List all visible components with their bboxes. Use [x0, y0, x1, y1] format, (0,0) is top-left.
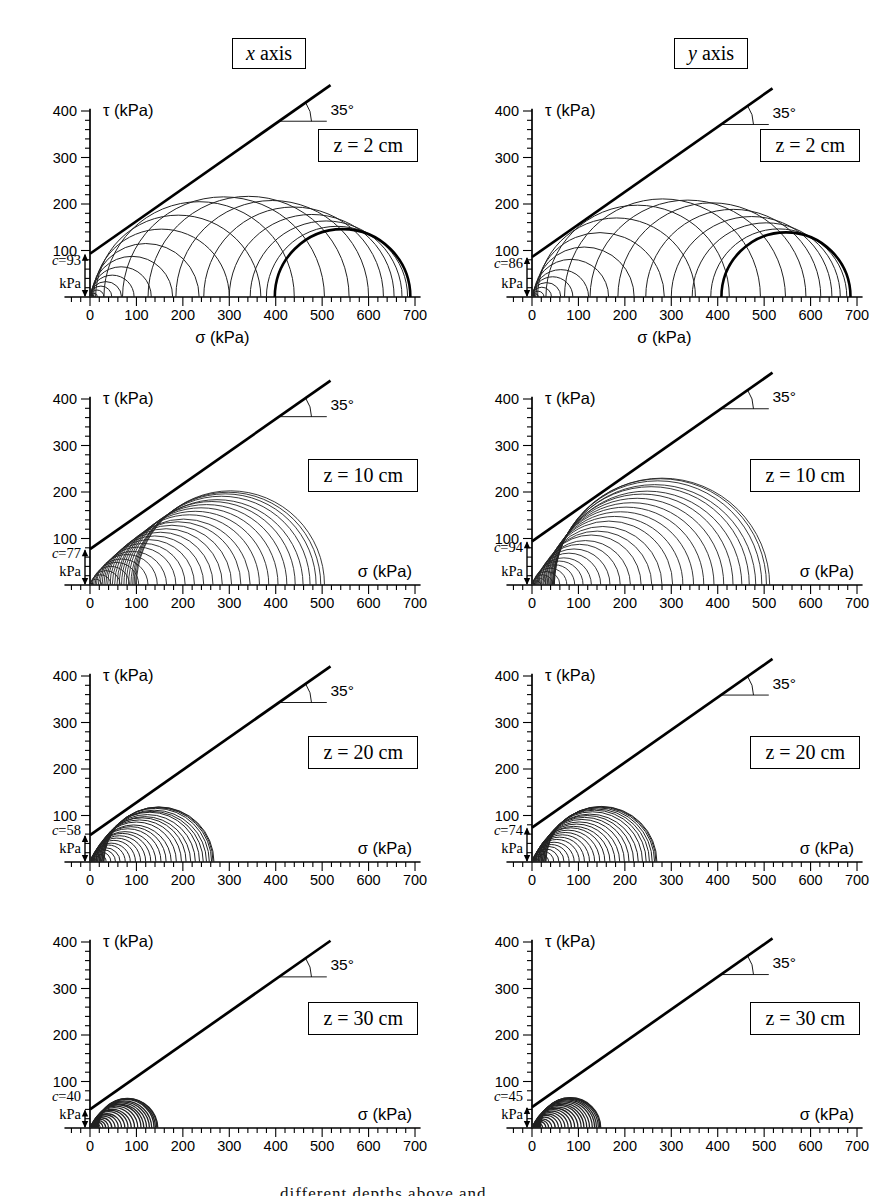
mohr-circle [275, 229, 411, 297]
mohr-panel-y-z20cm: 0100200300400500600700100200300400τ (kPa… [442, 607, 884, 917]
cohesion-arrowhead-top [82, 835, 88, 842]
plot-x-z30: 0100200300400500600700100200300400τ (kPa… [52, 932, 427, 1154]
column-header-y-axis: y axis [674, 38, 748, 69]
x-tick-label: 400 [706, 1138, 730, 1154]
mohr-panel-x-z30cm: 0100200300400500600700100200300400τ (kPa… [0, 873, 442, 1183]
cohesion-unit-label: kPa [59, 275, 81, 291]
mohr-panel-y-z30cm: 0100200300400500600700100200300400τ (kPa… [442, 873, 884, 1183]
angle-arc [306, 958, 312, 977]
mohr-circle [546, 806, 657, 862]
plot-y-z20: 0100200300400500600700100200300400τ (kPa… [494, 659, 869, 888]
y-tick-label: 300 [53, 438, 77, 454]
plot-y-z30: 0100200300400500600700100200300400τ (kPa… [494, 932, 869, 1154]
x-tick-label: 300 [659, 1138, 683, 1154]
cohesion-unit-label: kPa [59, 840, 81, 856]
cohesion-arrowhead-bottom [524, 1121, 530, 1128]
cohesion-value-label: c=40 [52, 1088, 81, 1104]
angle-arc [748, 106, 754, 125]
y-tick-label: 300 [495, 981, 519, 997]
angle-arc [306, 684, 312, 703]
cohesion-arrowhead-bottom [524, 290, 530, 297]
mohr-circle [544, 526, 662, 585]
x-tick-label: 0 [86, 1138, 94, 1154]
cohesion-arrowhead-bottom [524, 578, 530, 585]
y-tick-label: 200 [53, 1027, 77, 1043]
x-tick-label: 600 [798, 307, 822, 323]
depth-label-box: z = 30 cm [308, 1002, 418, 1035]
depth-label-box: z = 10 cm [750, 459, 860, 492]
y-tick-label: 200 [53, 761, 77, 777]
cohesion-unit-label: kPa [501, 563, 523, 579]
y-tick-label: 400 [53, 103, 77, 119]
angle-arc [748, 956, 754, 975]
depth-label-box: z = 10 cm [308, 459, 418, 492]
angle-arc [306, 103, 312, 122]
y-tick-label: 300 [495, 715, 519, 731]
y-axis-title: τ (kPa) [545, 666, 596, 684]
mohr-circle [104, 202, 294, 297]
column-header-variable: y [688, 42, 697, 64]
depth-label-box: z = 20 cm [750, 736, 860, 769]
y-axis-title: τ (kPa) [103, 666, 154, 684]
mohr-panel-x-z10cm: 0100200300400500600700100200300400τ (kPa… [0, 330, 442, 640]
mohr-circle [98, 818, 186, 862]
failure-envelope-line [532, 938, 773, 1107]
x-tick-label: 500 [752, 307, 776, 323]
friction-angle-label: 35° [773, 675, 796, 692]
x-axis-title: σ (kPa) [800, 1105, 854, 1123]
column-header-variable: x [246, 42, 255, 64]
y-tick-label: 200 [495, 484, 519, 500]
cohesion-value-label: c=86 [494, 255, 523, 271]
x-tick-label: 0 [86, 307, 94, 323]
cohesion-arrowhead-bottom [524, 855, 530, 862]
angle-arc [748, 390, 754, 409]
mohr-circle [148, 196, 349, 297]
x-tick-label: 100 [566, 307, 590, 323]
x-tick-label: 500 [310, 1138, 334, 1154]
mohr-circles [532, 199, 851, 297]
mohr-panel-y-z10cm: 0100200300400500600700100200300400τ (kPa… [442, 330, 884, 640]
cohesion-value-label: c=58 [52, 822, 81, 838]
mohr-circles [90, 491, 324, 585]
x-tick-label: 200 [613, 1138, 637, 1154]
y-tick-label: 300 [53, 715, 77, 731]
y-tick-label: 200 [53, 196, 77, 212]
y-tick-label: 200 [495, 1027, 519, 1043]
friction-angle-label: 35° [331, 396, 354, 413]
cohesion-unit-label: kPa [501, 275, 523, 291]
column-header-rest: axis [255, 42, 292, 64]
friction-angle-label: 35° [331, 956, 354, 973]
y-tick-label: 400 [53, 934, 77, 950]
x-tick-label: 0 [528, 1138, 536, 1154]
cohesion-arrowhead-top [82, 1109, 88, 1116]
depth-label-box: z = 2 cm [760, 129, 860, 162]
x-tick-label: 200 [171, 1138, 195, 1154]
x-tick-label: 100 [124, 1138, 148, 1154]
mohr-circle [554, 481, 762, 585]
x-tick-label: 300 [659, 307, 683, 323]
cohesion-value-label: c=45 [494, 1088, 523, 1104]
cohesion-arrowhead-top [524, 828, 530, 835]
mohr-circles [532, 1098, 601, 1128]
cohesion-arrowhead-top [82, 254, 88, 261]
angle-arc [748, 676, 754, 695]
y-tick-label: 400 [495, 934, 519, 950]
y-tick-label: 300 [495, 150, 519, 166]
y-axis-title: τ (kPa) [545, 932, 596, 950]
x-tick-label: 400 [264, 1138, 288, 1154]
x-tick-label: 700 [845, 1138, 869, 1154]
mohr-circle [108, 532, 213, 585]
x-tick-label: 200 [613, 307, 637, 323]
y-tick-label: 400 [53, 391, 77, 407]
y-tick-label: 200 [53, 484, 77, 500]
mohr-panel-y-z2cm: 0100200300400500600700100200300400τ (kPa… [442, 0, 884, 358]
friction-angle-label: 35° [331, 682, 354, 699]
depth-label-box: z = 30 cm [750, 1002, 860, 1035]
x-axis-title: σ (kPa) [358, 562, 412, 580]
angle-arc [306, 398, 312, 417]
x-tick-label: 600 [356, 307, 380, 323]
x-tick-label: 700 [845, 307, 869, 323]
cohesion-unit-label: kPa [501, 1106, 523, 1122]
failure-envelope-line [532, 659, 773, 828]
x-tick-label: 100 [566, 1138, 590, 1154]
